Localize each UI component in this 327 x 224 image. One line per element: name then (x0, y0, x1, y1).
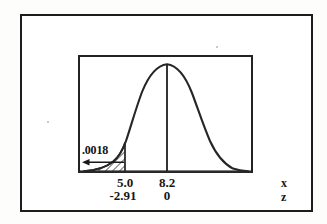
x-axis-name: x (281, 177, 287, 190)
z-axis-name: z (281, 191, 286, 204)
z-tick-label-mean: 0 (149, 189, 185, 203)
figure-screenshot: .0018 5.0 8.2 -2.91 0 x z (0, 0, 327, 224)
z-tick-row: -2.91 0 (0, 189, 327, 203)
z-tick-label-cutoff: -2.91 (102, 189, 144, 203)
normal-curve (84, 64, 248, 171)
shaded-area-annotation: .0018 (82, 144, 108, 157)
